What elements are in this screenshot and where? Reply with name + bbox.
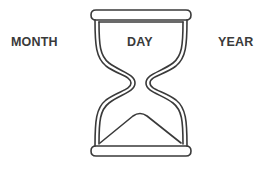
hourglass-icon (0, 0, 269, 171)
label-month: MONTH (11, 34, 58, 50)
hourglass-left-wall-outer (95, 20, 131, 146)
hourglass-bottom-cap (91, 146, 191, 156)
label-year: YEAR (218, 34, 254, 50)
hourglass-right-wall-outer (150, 20, 187, 146)
hourglass-sand-mound (100, 114, 181, 144)
label-day: DAY (127, 34, 153, 50)
hourglass-top-cap (91, 10, 191, 20)
